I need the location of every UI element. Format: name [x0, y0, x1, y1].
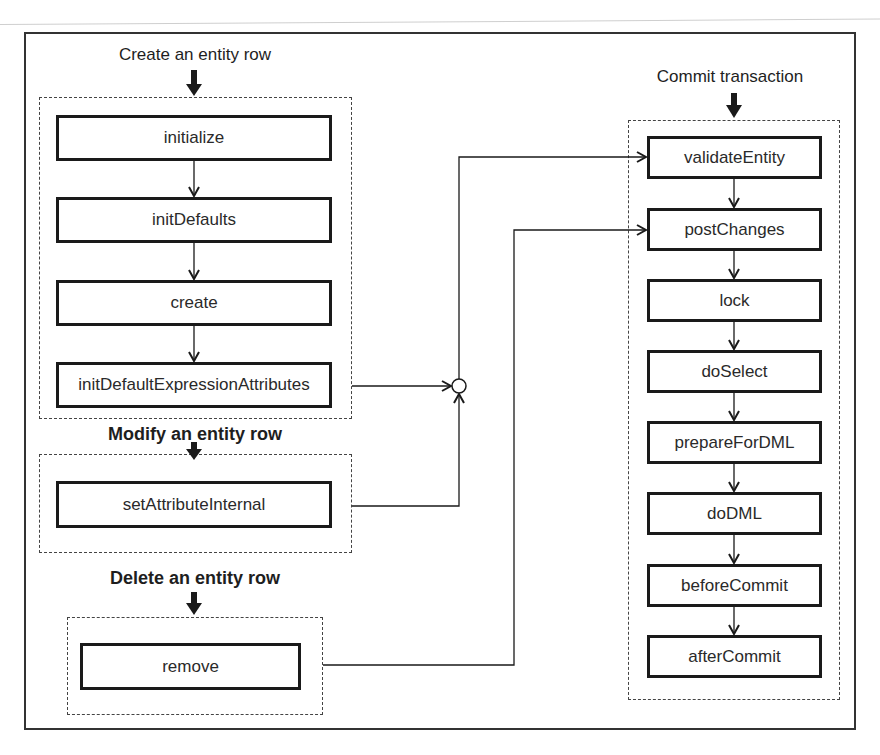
wire-junction-to-validateentity	[459, 157, 646, 379]
wire-delete-to-postchanges	[323, 230, 646, 665]
wire-modify-to-junction	[352, 394, 459, 506]
connector-layer	[0, 0, 880, 755]
junction-node	[452, 379, 466, 393]
